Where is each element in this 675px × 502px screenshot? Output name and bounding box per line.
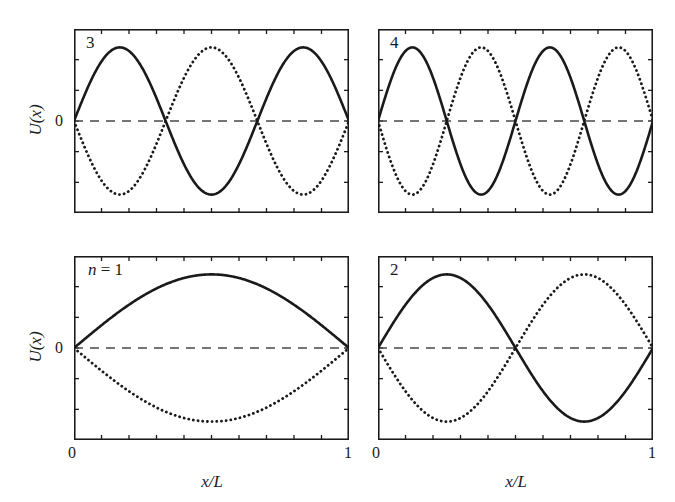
panel-mode-4 xyxy=(378,29,653,213)
panel-mode-1 xyxy=(74,256,349,440)
panel-mode-3 xyxy=(74,29,349,213)
x-axis-label-bottom-left: x/L xyxy=(162,472,262,492)
plot-area-mode-3 xyxy=(74,29,349,213)
y-axis-label-top: U(x) xyxy=(26,80,46,160)
y-tick-zero-top: 0 xyxy=(55,112,63,130)
panel-label-mode-1: n = 1 xyxy=(88,260,123,280)
standing-wave-modes-figure: 3 U(x) 0 4 n = 1 U(x) 0 0 1 x/L 2 0 1 x/… xyxy=(0,0,675,502)
panel-label-mode-1-eq: = xyxy=(97,260,115,279)
panel-label-mode-1-value: 1 xyxy=(115,260,124,279)
plot-area-mode-2 xyxy=(378,256,653,440)
panel-label-mode-4: 4 xyxy=(390,33,399,53)
panel-label-mode-3: 3 xyxy=(86,33,95,53)
plot-area-mode-4 xyxy=(378,29,653,213)
x-tick-left-bottom-left: 0 xyxy=(68,444,76,462)
panel-label-mode-1-n: n xyxy=(88,260,97,279)
y-axis-label-bottom: U(x) xyxy=(26,307,46,387)
x-axis-label-bottom-right: x/L xyxy=(466,472,566,492)
plot-area-mode-1 xyxy=(74,256,349,440)
x-tick-left-bottom-right: 0 xyxy=(372,444,380,462)
x-tick-right-bottom-right: 1 xyxy=(648,444,656,462)
x-tick-right-bottom-left: 1 xyxy=(344,444,352,462)
y-tick-zero-bottom: 0 xyxy=(55,339,63,357)
panel-label-mode-2: 2 xyxy=(390,260,399,280)
panel-mode-2 xyxy=(378,256,653,440)
